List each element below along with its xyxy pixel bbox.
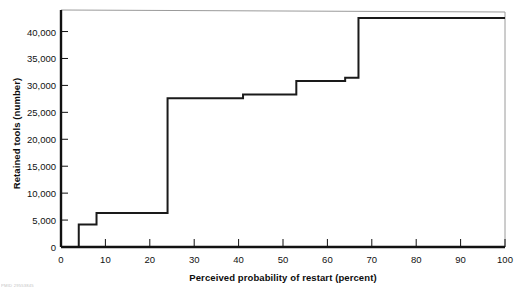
plot-canvas	[0, 0, 519, 293]
figure-credit: PMID 29553845	[1, 283, 34, 288]
step-curve-series	[61, 18, 505, 247]
plot-frame	[61, 10, 505, 247]
y-axis-title: Retained tools (number)	[11, 44, 22, 224]
x-axis-title: Perceived probability of restart (percen…	[61, 272, 505, 283]
chart-figure: Retained tools (number) Perceived probab…	[0, 0, 519, 293]
